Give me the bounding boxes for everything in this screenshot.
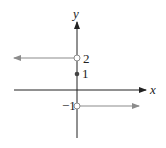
label-2: 2 [83,51,90,66]
open-point-y2 [74,55,80,61]
label-1: 1 [82,66,89,81]
piecewise-graph: x y 2 1 −1 [0,0,166,148]
y-axis-label: y [71,6,79,21]
label-neg1: −1 [62,98,76,113]
graph-svg: x y 2 1 −1 [0,0,166,148]
closed-point-y1 [75,72,80,77]
x-axis-label: x [149,82,156,97]
